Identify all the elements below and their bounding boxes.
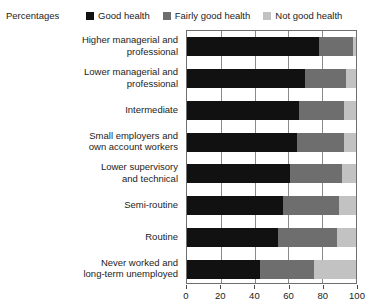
axis-tick-mark	[323, 285, 324, 289]
bar-segment[interactable]	[187, 164, 290, 183]
bar-segment[interactable]	[342, 164, 356, 183]
bar-row[interactable]	[187, 69, 356, 88]
category-label: Lower supervisory and technical	[101, 161, 178, 184]
bar-segment[interactable]	[319, 37, 353, 56]
percentages-axis-label: Percentages	[6, 8, 59, 24]
bar-segment[interactable]	[290, 164, 342, 183]
legend-item[interactable]: Not good health	[263, 8, 342, 24]
axis-tick-label: 0	[183, 290, 188, 301]
chart-legend: Good healthFairly good healthNot good he…	[86, 8, 342, 24]
category-label: Routine	[145, 231, 178, 243]
axis-tick-mark	[220, 285, 221, 289]
category-label: Higher managerial and professional	[82, 34, 178, 57]
bar-segment[interactable]	[353, 37, 356, 56]
bar-rows	[187, 31, 356, 283]
bar-segment[interactable]	[314, 260, 356, 279]
axis-tick-mark	[289, 285, 290, 289]
axis-tick-mark	[186, 285, 187, 289]
legend-item-label: Fairly good health	[175, 8, 251, 24]
legend-swatch-not-good-health	[263, 12, 271, 20]
axis-tick-label: 40	[249, 290, 260, 301]
axis-tick-label: 60	[283, 290, 294, 301]
stacked-bar-chart: Percentages Good healthFairly good healt…	[0, 0, 369, 307]
bar-segment[interactable]	[283, 196, 339, 215]
bar-segment[interactable]	[187, 69, 305, 88]
bar-row[interactable]	[187, 133, 356, 152]
category-label: Lower managerial and professional	[84, 66, 178, 89]
legend-item[interactable]: Good health	[86, 8, 150, 24]
category-label: Intermediate	[125, 104, 178, 116]
legend-swatch-fairly-good-health	[163, 12, 171, 20]
bar-segment[interactable]	[187, 37, 319, 56]
bar-segment[interactable]	[339, 196, 356, 215]
x-axis: 020406080100	[186, 285, 357, 305]
bar-segment[interactable]	[337, 228, 356, 247]
axis-tick-mark	[254, 285, 255, 289]
axis-tick-label: 100	[349, 290, 365, 301]
legend-item-label: Not good health	[275, 8, 342, 24]
bar-segment[interactable]	[305, 69, 346, 88]
category-axis-labels: Higher managerial and professionalLower …	[0, 30, 182, 284]
bar-segment[interactable]	[187, 228, 278, 247]
axis-tick-mark	[357, 285, 358, 289]
category-label: Never worked and long-term unemployed	[83, 257, 178, 280]
axis-tick-label: 80	[318, 290, 329, 301]
chart-header: Percentages Good healthFairly good healt…	[0, 8, 369, 24]
bar-segment[interactable]	[346, 69, 356, 88]
bar-segment[interactable]	[344, 101, 356, 120]
bar-segment[interactable]	[260, 260, 314, 279]
bar-segment[interactable]	[187, 133, 297, 152]
category-label: Small employers and own account workers	[89, 130, 178, 153]
bar-segment[interactable]	[187, 260, 260, 279]
bar-segment[interactable]	[344, 133, 356, 152]
bar-segment[interactable]	[297, 133, 344, 152]
legend-item-label: Good health	[98, 8, 150, 24]
legend-swatch-good-health	[86, 12, 94, 20]
legend-item[interactable]: Fairly good health	[163, 8, 251, 24]
bar-row[interactable]	[187, 228, 356, 247]
category-label: Semi-routine	[124, 199, 178, 211]
bar-row[interactable]	[187, 260, 356, 279]
bar-segment[interactable]	[299, 101, 345, 120]
bar-row[interactable]	[187, 164, 356, 183]
bar-segment[interactable]	[278, 228, 337, 247]
plot-area	[186, 30, 357, 284]
bar-row[interactable]	[187, 37, 356, 56]
bar-row[interactable]	[187, 196, 356, 215]
bar-segment[interactable]	[187, 101, 299, 120]
axis-tick-label: 20	[215, 290, 226, 301]
bar-segment[interactable]	[187, 196, 283, 215]
bar-row[interactable]	[187, 101, 356, 120]
